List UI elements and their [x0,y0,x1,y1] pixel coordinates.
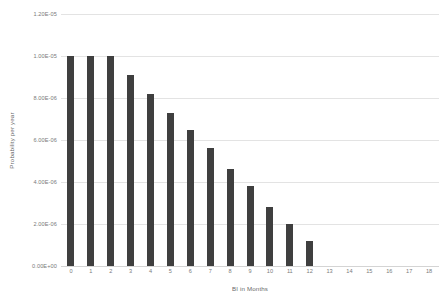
x-axis-tick-label: 5 [169,268,172,274]
bar [306,241,313,266]
x-axis-tick-label: 3 [129,268,132,274]
x-axis-tick-label: 13 [326,268,332,274]
y-axis-tick-label: 2.00E-06 [33,221,57,227]
bar [167,113,174,266]
bar-chart: Probability per year 1.20E-051.00E-058.0… [0,0,448,307]
x-axis-tick-label: 7 [209,268,212,274]
x-axis-tick-label: 2 [109,268,112,274]
x-axis-tick-label: 6 [189,268,192,274]
bar [67,56,74,266]
y-axis-title-text: Probability per year [8,112,15,168]
x-axis-tick-label: 16 [386,268,392,274]
bars-layer [61,14,439,266]
x-axis-tick-label: 18 [426,268,432,274]
bar [286,224,293,266]
x-axis-tick-label: 1 [89,268,92,274]
bar [247,186,254,266]
bar [87,56,94,266]
x-axis-tick-label: 15 [366,268,372,274]
x-axis-title: BI in Months [61,285,439,292]
bar [207,148,214,266]
x-axis-tick-label: 8 [229,268,232,274]
x-axis-tick-label: 0 [69,268,72,274]
y-axis-tick-labels: 1.20E-051.00E-058.00E-066.00E-064.00E-06… [18,0,60,307]
x-axis-tick-label: 4 [149,268,152,274]
x-axis-tick-label: 11 [287,268,293,274]
x-axis-tick-labels: 0123456789101112131415161718 [61,268,439,282]
bar [107,56,114,266]
bar [266,207,273,266]
x-axis-tick-label: 9 [248,268,251,274]
y-axis-tick-label: 4.00E-06 [33,179,57,185]
y-axis-tick-label: 0.00E+00 [32,263,57,269]
bar [147,94,154,266]
plot-area [61,14,439,266]
y-axis-tick-label: 6.00E-06 [33,137,57,143]
bar [127,75,134,266]
x-axis-tick-label: 10 [267,268,273,274]
bar [227,169,234,266]
y-axis-tick-label: 1.20E-05 [33,11,57,17]
x-axis-tick-label: 14 [346,268,352,274]
bar [187,130,194,267]
y-axis-tick-label: 8.00E-06 [33,95,57,101]
y-axis-tick-label: 1.00E-05 [33,53,57,59]
gridline [61,266,439,267]
x-axis-tick-label: 17 [406,268,412,274]
x-axis-tick-label: 12 [307,268,313,274]
